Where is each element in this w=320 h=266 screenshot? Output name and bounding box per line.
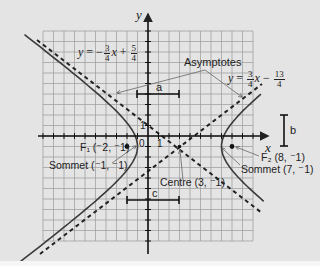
b-label: b <box>290 125 296 136</box>
origin-label: 0 <box>139 139 145 149</box>
focus1-label: F₁ (⁻2, ⁻1) <box>80 142 129 153</box>
asymptotes-label: Asymptotes <box>184 57 241 68</box>
focus2-label: F₂ (8, ⁻1) <box>261 152 305 163</box>
x-tick-label: 1 <box>157 139 163 149</box>
vertex2-label: Sommet (7, ⁻1) <box>241 164 314 175</box>
a-label: a <box>156 82 162 93</box>
graph-svg <box>0 0 320 266</box>
centre-label: Centre (3, ⁻1) <box>160 177 225 188</box>
y-axis-label: y <box>136 8 142 21</box>
y-tick-label: 1 <box>140 121 146 131</box>
focus2-point <box>230 144 235 149</box>
c-label: c <box>152 188 158 199</box>
bottom-strip <box>0 261 320 266</box>
centre-point <box>178 145 182 149</box>
b-segment <box>280 115 288 146</box>
hyperbola-figure: y x 0 1 1 y = −34x + 54 y = 34x − 134 As… <box>0 0 320 266</box>
vertex1-label: Sommet (⁻1, ⁻1) <box>49 160 128 171</box>
asymptote-left-equation: y = −34x + 54 <box>78 44 138 63</box>
asymptote-right-equation: y = 34x − 134 <box>228 70 286 89</box>
